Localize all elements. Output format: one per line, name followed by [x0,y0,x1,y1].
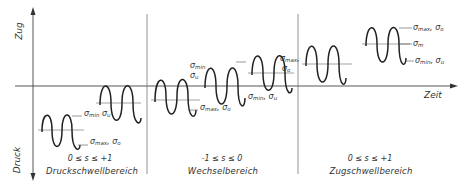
y-axis-label-druck: Druck [12,147,22,174]
label-zug-top: σmax, σo [413,24,444,33]
axes [15,12,452,176]
label-druck-top: σmin σu [84,110,111,119]
label-zug-mid: σm [413,40,423,49]
label-zug-bottom: σmin, σu [415,57,444,66]
waveforms [42,28,406,150]
y-axis-arrow-down-icon [31,173,36,181]
wave-zug-2 [366,28,406,65]
wave-druck-1 [42,115,80,149]
x-axis-label-zeit: Zeit [424,91,442,100]
wave-zug-1 [306,46,346,84]
region-wechsel-range: -1 ≤ s ≤ 0 [172,154,272,163]
region-wechsel-name: Wechselbereich [168,166,278,176]
region-druck-name: Druckschwellbereich [36,166,148,176]
region-druck-range: 0 ≤ s ≤ +1 [40,154,140,163]
label-wechsel-1-top-b: σu [190,72,199,81]
leader-lines [72,28,414,145]
wave-wechsel-2 [205,68,245,106]
wave-wechsel-1 [155,80,196,117]
y-axis-label-zug: Zug [14,22,24,40]
y-axis-arrow-up-icon [31,7,36,15]
label-wechsel-1-bottom: σmax, σo [200,104,231,113]
label-druck-bottom: σmax, σo [90,138,121,147]
label-wechsel-1-top: σmin [190,62,205,71]
label-wechsel-2-bottom: σmin, σu [248,93,277,102]
region-zug-range: 0 ≤ s ≤ +1 [320,154,420,163]
x-axis-arrow-right-icon [450,84,458,89]
label-wechsel-2-top-b: σo [282,65,290,74]
label-wechsel-2-top: σmax, [280,55,300,64]
region-zug-name: Zugschwellbereich [312,166,430,176]
